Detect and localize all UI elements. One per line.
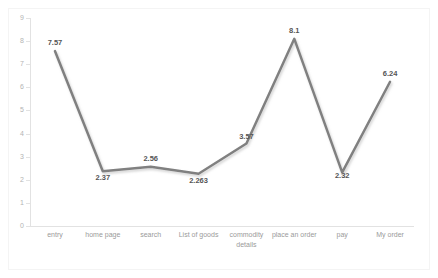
x-category-label: home page [79,230,127,240]
y-tick-label: 8 [2,37,24,45]
y-tick-mark [26,226,30,227]
y-tick-mark [26,134,30,135]
plot-area [31,18,414,226]
x-category-label: entry [31,230,79,240]
y-tick-label: 6 [2,83,24,91]
x-category-label: My order [366,230,414,240]
y-tick-label: 5 [2,106,24,114]
y-tick-mark [26,41,30,42]
series-polyline [55,39,390,174]
y-tick-mark [26,180,30,181]
y-tick-mark [26,157,30,158]
y-tick-label: 0 [2,222,24,230]
y-tick-label: 2 [2,176,24,184]
x-category-label: search [127,230,175,240]
y-tick-label: 7 [2,60,24,68]
x-category-label: place an order [270,230,318,240]
y-tick-mark [26,87,30,88]
series-line-svg [31,18,414,226]
y-tick-mark [26,203,30,204]
y-tick-label: 3 [2,153,24,161]
y-tick-mark [26,64,30,65]
x-category-label: commodity details [223,230,271,250]
y-tick-label: 4 [2,130,24,138]
y-tick-label: 9 [2,14,24,22]
y-tick-label: 1 [2,199,24,207]
x-axis-labels: entryhome pagesearchList of goodscommodi… [31,230,414,270]
x-category-label: pay [318,230,366,240]
y-tick-mark [26,110,30,111]
y-axis-labels: 9876543210 [0,0,24,278]
y-tick-mark [26,18,30,19]
x-axis-line [31,226,414,227]
x-category-label: List of goods [175,230,223,240]
line-chart: 9876543210 7.572.372.562.2633.578.12.326… [0,0,438,278]
